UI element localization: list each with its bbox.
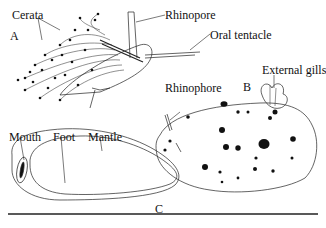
label-rhinopore: Rhinopore — [165, 9, 216, 21]
label-cerata: Cerata — [12, 9, 43, 21]
label-mantle: Mantle — [88, 131, 122, 143]
label-mouth: Mouth — [9, 131, 41, 143]
label-foot: Foot — [53, 131, 75, 143]
panel-label-a: A — [10, 30, 19, 42]
label-oral-tentacle: Oral tentacle — [210, 29, 272, 41]
panel-label-c: C — [155, 203, 163, 215]
label-external-gills: External gills — [262, 64, 326, 76]
label-rhinophore: Rhinophore — [165, 82, 222, 94]
panel-label-b: B — [243, 81, 251, 93]
